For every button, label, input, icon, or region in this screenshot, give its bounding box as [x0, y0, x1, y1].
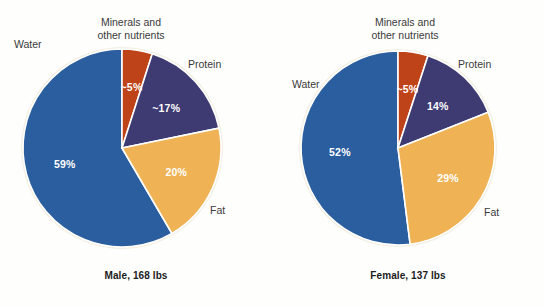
pie-female-value-water: 52% [329, 146, 351, 158]
pie-female-value-minerals: ~5% [396, 83, 418, 95]
pie-female-svg: 52% ~5% 14% 29% [298, 48, 498, 248]
pie-female-label-water: Water [292, 78, 320, 91]
pie-chart-female: 52% ~5% 14% 29% Minerals and other nutri… [272, 0, 544, 306]
pie-male-label-minerals-line1: Minerals and [76, 16, 186, 29]
pie-female-label-minerals: Minerals and other nutrients [350, 16, 460, 41]
pie-female-label-fat: Fat [484, 206, 499, 219]
pie-female-label-protein: Protein [458, 58, 491, 71]
pie-female-caption: Female, 137 lbs [272, 270, 544, 281]
pie-male-label-protein: Protein [188, 58, 221, 71]
pie-male-label-minerals-line2: other nutrients [76, 29, 186, 42]
pie-female-value-fat: 29% [437, 172, 459, 184]
pie-male-slices [23, 49, 221, 247]
pie-male-value-minerals: ~5% [121, 81, 143, 93]
pie-female-value-protein: 14% [427, 100, 449, 112]
pie-chart-male: 59% ~5% ~17% 20% Minerals and other nutr… [0, 0, 272, 306]
pie-male-wrap: 59% ~5% ~17% 20% [20, 46, 224, 250]
pie-female-label-minerals-line1: Minerals and [350, 16, 460, 29]
pie-female-wrap: 52% ~5% 14% 29% [298, 48, 498, 248]
pie-male-label-water: Water [14, 38, 42, 51]
pie-male-svg: 59% ~5% ~17% 20% [20, 46, 224, 250]
body-composition-figure: 59% ~5% ~17% 20% Minerals and other nutr… [0, 0, 544, 306]
pie-male-value-protein: ~17% [152, 102, 180, 114]
pie-male-caption: Male, 168 lbs [0, 270, 272, 281]
pie-female-label-minerals-line2: other nutrients [350, 29, 460, 42]
pie-male-value-water: 59% [54, 158, 76, 170]
pie-male-label-fat: Fat [210, 204, 225, 217]
pie-male-label-minerals: Minerals and other nutrients [76, 16, 186, 41]
pie-male-value-fat: 20% [165, 166, 187, 178]
